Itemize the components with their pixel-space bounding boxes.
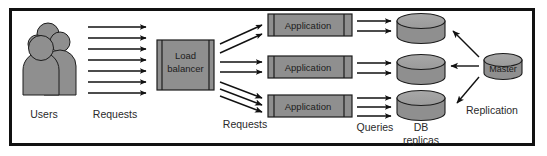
db-replica-1: [397, 14, 445, 44]
edge-app-to-db-bottom: [357, 98, 391, 116]
queries-label: Queries: [357, 121, 394, 133]
master-label: Master: [489, 64, 517, 74]
db-replicas-caption-line2: replicas: [403, 134, 439, 146]
requests-label-lb: Requests: [223, 118, 267, 130]
application-node-3: Application: [268, 95, 352, 117]
db-replicas-caption-line1: DB: [414, 121, 429, 133]
application-label: Application: [285, 101, 331, 112]
requests-label-users: Requests: [93, 108, 137, 120]
edge-app-to-db-middle: [357, 63, 391, 73]
db-replica-3: [397, 91, 445, 121]
edge-users-to-load-balancer: [88, 27, 146, 93]
master-database-node: Master: [484, 54, 522, 80]
application-node-2: Application: [268, 56, 352, 78]
edge-lb-to-app-middle: [220, 62, 262, 72]
application-label: Application: [285, 20, 331, 31]
users-group-icon: [23, 23, 76, 95]
load-balancer-label-line2: balancer: [167, 63, 203, 74]
diagram-canvas: Users Requests Load balancer: [0, 0, 547, 156]
db-replica-2: [397, 55, 445, 85]
edge-app-to-db-top: [357, 21, 391, 31]
load-balancer-node: Load balancer: [157, 40, 214, 90]
application-label: Application: [285, 62, 331, 73]
architecture-diagram: Users Requests Load balancer: [0, 0, 547, 156]
application-node-1: Application: [268, 14, 352, 36]
users-label: Users: [30, 108, 57, 120]
replication-label: Replication: [466, 104, 518, 116]
edge-lb-to-app-bottom: [220, 82, 262, 112]
edge-master-to-replicas: [451, 31, 479, 103]
edge-lb-to-app-top: [220, 25, 262, 53]
load-balancer-label-line1: Load: [175, 50, 196, 61]
